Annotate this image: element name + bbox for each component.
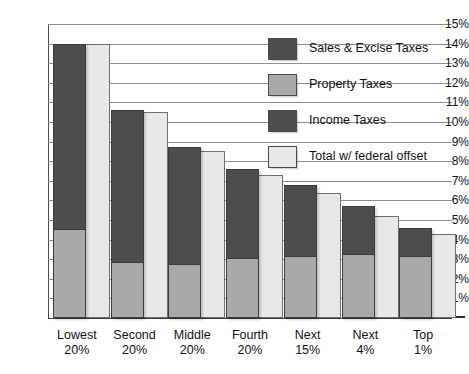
x-axis-label-line: Top [394, 328, 452, 343]
bar-total-with-federal-offset [200, 151, 225, 318]
bar-total-with-federal-offset [431, 234, 456, 318]
x-axis-label: Middle20% [163, 328, 221, 357]
bar-stacked [111, 110, 144, 318]
y-axis-tick-label: 6% [429, 194, 469, 206]
x-axis-label: Next15% [279, 328, 337, 357]
x-axis-label-line: Lowest [48, 328, 106, 343]
x-axis-label: Top1% [394, 328, 452, 357]
x-axis-label-line: Second [106, 328, 164, 343]
x-axis-label-line: 20% [106, 343, 164, 358]
x-axis-baseline [48, 318, 452, 319]
legend-swatch-icon [268, 38, 297, 60]
bar-segment-property-taxes [54, 230, 85, 317]
y-axis-tick-label: 5% [429, 214, 469, 226]
bar-stacked [226, 169, 259, 318]
bar-stacked [53, 44, 86, 318]
bar-segment-sales-excise-taxes [285, 186, 316, 258]
bar-stacked [399, 228, 432, 318]
bar-total-with-federal-offset [374, 216, 399, 318]
x-axis-label-line: 20% [48, 343, 106, 358]
legend-item[interactable]: Sales & Excise Taxes [268, 33, 464, 64]
bar-stacked [168, 147, 201, 318]
bar-total-with-federal-offset [85, 44, 110, 318]
x-axis-label-line: 4% [337, 343, 395, 358]
x-axis-label-line: Middle [163, 328, 221, 343]
bar-total-with-federal-offset [316, 193, 341, 318]
bar-stacked [342, 206, 375, 318]
x-axis-label-line: 15% [279, 343, 337, 358]
chart-legend: Sales & Excise TaxesProperty TaxesIncome… [268, 33, 464, 177]
bar-segment-property-taxes [400, 257, 431, 317]
x-axis-label: Fourth20% [221, 328, 279, 357]
x-axis-label: Next4% [337, 328, 395, 357]
x-axis-label-line: Fourth [221, 328, 279, 343]
bar-segment-property-taxes [285, 257, 316, 317]
y-axis-tick-label: 15% [429, 18, 469, 30]
bar-segment-property-taxes [169, 265, 200, 317]
x-axis-label-line: Next [337, 328, 395, 343]
bar-segment-sales-excise-taxes [227, 170, 258, 259]
legend-swatch-icon [268, 146, 297, 168]
legend-item[interactable]: Income Taxes [268, 105, 464, 136]
bar-segment-sales-excise-taxes [169, 148, 200, 265]
x-axis-label-line: 1% [394, 343, 452, 358]
legend-swatch-icon [268, 74, 297, 96]
legend-swatch-icon [268, 110, 297, 132]
bar-total-with-federal-offset [143, 112, 168, 318]
bar-segment-sales-excise-taxes [400, 229, 431, 257]
x-axis-label-line: 20% [221, 343, 279, 358]
bar-total-with-federal-offset [258, 175, 283, 318]
legend-item-label: Property Taxes [309, 78, 392, 91]
legend-item-label: Total w/ federal offset [309, 150, 427, 163]
x-axis-label-line: Next [279, 328, 337, 343]
x-axis-label-line: 20% [163, 343, 221, 358]
legend-item[interactable]: Total w/ federal offset [268, 141, 464, 172]
legend-item[interactable]: Property Taxes [268, 69, 464, 100]
chart-container: 15%14%13%12%11%10%9%8%7%6%5%4%3%2%1% Low… [0, 0, 469, 374]
bar-segment-sales-excise-taxes [112, 111, 143, 263]
bar-segment-property-taxes [343, 255, 374, 317]
bar-segment-sales-excise-taxes [54, 45, 85, 230]
x-axis-label: Second20% [106, 328, 164, 357]
legend-item-label: Sales & Excise Taxes [309, 42, 428, 55]
bar-segment-property-taxes [227, 259, 258, 317]
bar-segment-property-taxes [112, 263, 143, 317]
legend-item-label: Income Taxes [309, 114, 386, 127]
gridline [48, 24, 452, 25]
x-axis-label: Lowest20% [48, 328, 106, 357]
bar-segment-sales-excise-taxes [343, 207, 374, 255]
bar-stacked [284, 185, 317, 318]
